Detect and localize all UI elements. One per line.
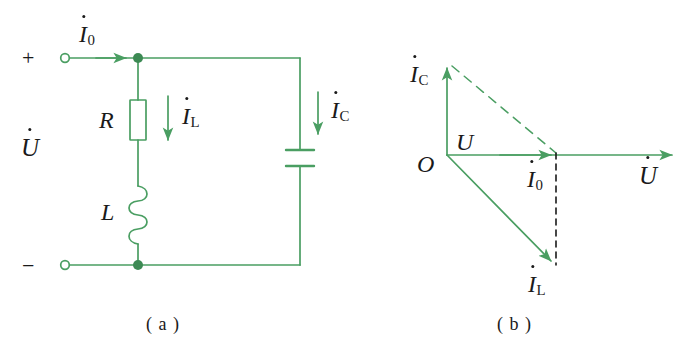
- phasor-ic-label: IC: [410, 62, 428, 88]
- caption-a: ( a ): [146, 315, 180, 333]
- resistor-label: R: [99, 108, 114, 132]
- current-ic-label: IC: [331, 98, 349, 124]
- source-voltage-label: U: [21, 135, 39, 160]
- phasor-il-label: IL: [528, 272, 546, 298]
- top-node-dot: [133, 53, 143, 63]
- negative-terminal-circle[interactable]: [61, 261, 70, 270]
- inductor-label: L: [101, 200, 114, 224]
- current-i0-label: I0: [79, 22, 95, 48]
- caption-b: ( b ): [497, 315, 532, 333]
- current-il-label: IL: [182, 104, 200, 130]
- bottom-node-dot: [133, 260, 143, 270]
- phasor-i0-label: I0: [527, 167, 543, 193]
- resistor-symbol: [130, 100, 146, 140]
- phasor-u-segment-label: U: [456, 130, 473, 154]
- positive-terminal-circle[interactable]: [61, 54, 70, 63]
- phasor-origin-label: O: [417, 152, 434, 176]
- circuit-diagram: [61, 53, 318, 270]
- positive-terminal-sign: +: [22, 47, 34, 69]
- figure-root: + − U I0 R L IL IC IC O U I0 IL U ( a ) …: [0, 0, 694, 362]
- inductor-symbol: [129, 186, 147, 244]
- phasor-u-label: U: [639, 163, 657, 188]
- figure-canvas: [0, 0, 694, 362]
- negative-terminal-sign: −: [22, 255, 34, 277]
